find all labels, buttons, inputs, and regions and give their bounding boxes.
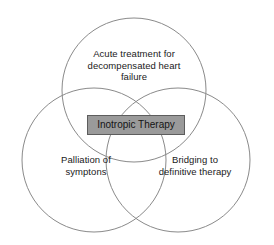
venn-label-left: Palliation of symptons [26,154,146,177]
venn-center-label: Inotropic Therapy [97,119,175,131]
venn-label-top: Acute treatment for decompensated heart … [62,48,206,83]
venn-label-right: Bridging to definitive therapy [130,154,260,177]
venn-circle-top [62,18,206,162]
venn-center-box: Inotropic Therapy [87,115,185,135]
venn-diagram: Acute treatment for decompensated heart … [0,0,274,245]
